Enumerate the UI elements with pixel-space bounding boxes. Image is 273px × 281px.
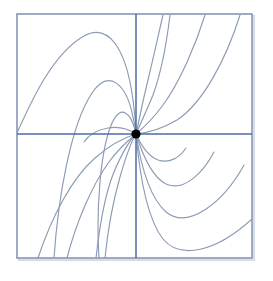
- equilibrium-point: [131, 129, 140, 138]
- phase-portrait-canvas: [0, 0, 273, 281]
- phase-portrait-figure: [0, 0, 273, 281]
